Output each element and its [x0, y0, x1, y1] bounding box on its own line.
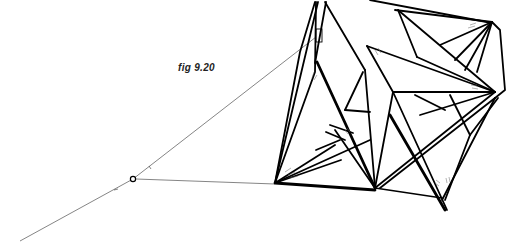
flying-line — [20, 37, 316, 241]
bridle-ring — [130, 176, 135, 181]
kite-frame — [275, 0, 505, 210]
fabric-hatching — [285, 23, 478, 186]
figure-caption: fig 9.20 — [178, 62, 215, 73]
kite-drawing — [0, 0, 514, 243]
bridle-lower-leg — [136, 179, 275, 184]
